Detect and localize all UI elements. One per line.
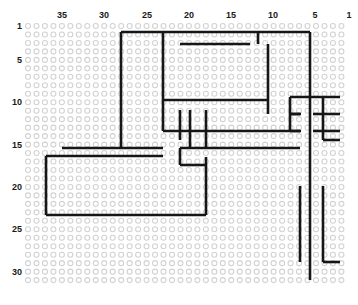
grid-plot-figure: 35 30 25 20 15 10 5 1 1 5 10 15 20 25 30 <box>0 0 358 305</box>
path-segments <box>0 0 358 305</box>
